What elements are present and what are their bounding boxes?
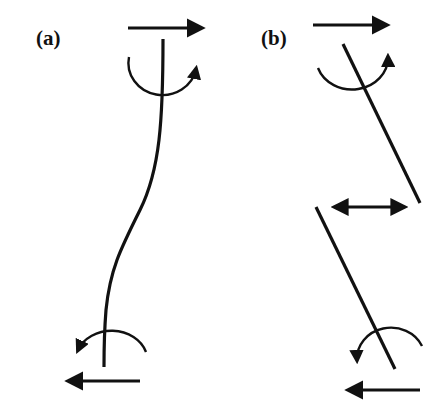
panel-b-upper-column-segment <box>343 44 420 203</box>
panel-b <box>313 25 422 390</box>
diagram-canvas <box>0 0 427 402</box>
panel-a <box>70 28 200 381</box>
panel-b-lower-column-segment <box>316 207 395 369</box>
panel-a-bottom-moment-arrow <box>78 331 146 352</box>
panel-a-curved-column <box>104 39 163 367</box>
